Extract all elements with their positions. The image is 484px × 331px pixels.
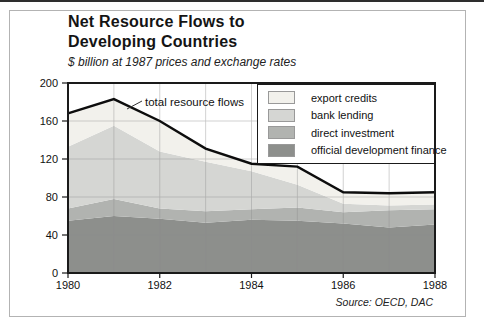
y-tick-label: 120	[40, 153, 58, 165]
legend-box: export credits bank lending direct inves…	[257, 84, 435, 164]
legend-item-bank-lending: bank lending	[258, 109, 434, 122]
page-top-edge	[0, 0, 484, 2]
y-tick-label: 80	[46, 191, 58, 203]
legend-item-official-development-finance: official development finance	[258, 144, 434, 157]
legend-label: export credits	[311, 92, 377, 104]
y-tick-label: 200	[40, 77, 58, 89]
official-development-finance-swatch	[268, 144, 295, 157]
chart-title-line1: Net Resource Flows to	[68, 12, 245, 32]
x-tick-label: 1980	[56, 279, 80, 291]
y-tick-label: 160	[40, 115, 58, 127]
export-credits-swatch	[268, 91, 295, 104]
source-note: Source: OECD, DAC	[233, 296, 433, 308]
legend-label: bank lending	[311, 109, 373, 121]
x-tick-label: 1988	[423, 279, 447, 291]
chart-title: Net Resource Flows to Developing Countri…	[68, 12, 245, 52]
legend-label: official development finance	[311, 144, 447, 156]
chart-title-line2: Developing Countries	[68, 32, 245, 52]
y-tick-label: 40	[46, 229, 58, 241]
y-tick-label: 0	[52, 267, 58, 279]
chart-subtitle: $ billion at 1987 prices and exchange ra…	[68, 55, 296, 69]
x-tick-label: 1986	[331, 279, 355, 291]
total-line-annotation: total resource flows	[145, 96, 244, 108]
x-tick-label: 1984	[239, 279, 263, 291]
legend-item-export-credits: export credits	[258, 91, 434, 104]
x-tick-label: 1982	[148, 279, 172, 291]
direct-investment-swatch	[268, 126, 295, 139]
legend-item-direct-investment: direct investment	[258, 126, 434, 139]
legend-label: direct investment	[311, 127, 394, 139]
bank-lending-swatch	[268, 109, 295, 122]
